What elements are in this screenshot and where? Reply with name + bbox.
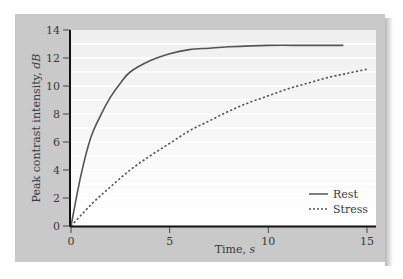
y-tick-label: 14 — [46, 24, 60, 37]
y-tick-label: 12 — [46, 52, 60, 65]
y-tick-label: 4 — [53, 164, 60, 177]
x-tick-label: 15 — [360, 235, 374, 248]
y-tick-label: 2 — [53, 192, 60, 205]
y-tick-label: 8 — [53, 108, 60, 121]
x-tick-label: 0 — [68, 235, 75, 248]
line-chart: 02468101214 051015 Peak contrast intensi… — [0, 0, 403, 279]
y-axis-label: Peak contrast intensity, dB — [30, 54, 43, 203]
y-tick-label: 10 — [46, 80, 60, 93]
y-ticks: 02468101214 — [46, 24, 70, 233]
x-tick-label: 10 — [261, 235, 275, 248]
x-axis-label: Time, s — [215, 243, 256, 256]
legend-rest-label: Rest — [333, 188, 358, 201]
legend-stress-label: Stress — [333, 203, 368, 216]
x-tick-label: 5 — [166, 235, 173, 248]
y-tick-label: 6 — [53, 136, 60, 149]
y-tick-label: 0 — [53, 220, 60, 233]
